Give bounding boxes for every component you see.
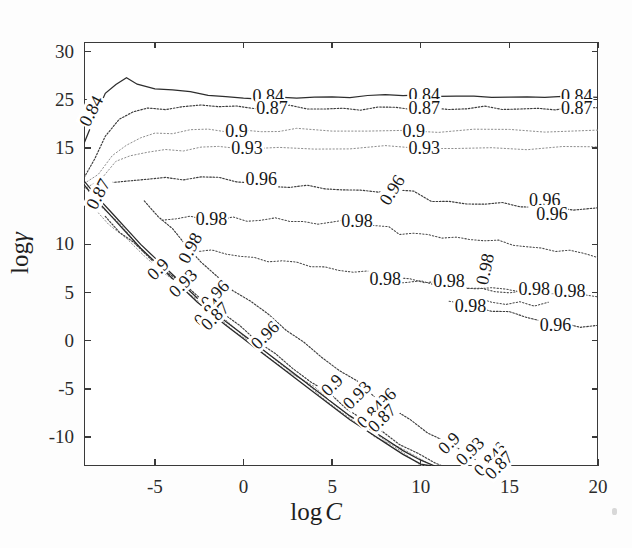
x-axis-tick-top xyxy=(509,42,510,48)
x-axis-tick xyxy=(331,459,332,466)
contour-level-label: 0.98 xyxy=(553,282,587,300)
contour-level-label: 0.9 xyxy=(401,122,426,140)
contour-path-0-96 xyxy=(105,216,445,466)
contour-level-label: 0.96 xyxy=(539,316,573,334)
x-axis-tick-label: -5 xyxy=(147,476,163,498)
x-axis-tick-top xyxy=(243,42,244,48)
y-axis-tick xyxy=(84,147,91,148)
contour-figure: 3025151050-5-10-505101520 0.840.840.840.… xyxy=(0,0,632,548)
contour-level-label: 0.93 xyxy=(408,139,442,157)
contour-level-label: 0.96 xyxy=(244,170,278,188)
y-axis-tick xyxy=(84,244,91,245)
y-axis-tick xyxy=(592,340,598,341)
contour-path-0-96 xyxy=(84,177,598,210)
y-axis-tick xyxy=(84,51,91,52)
contour-level-label: 0.9 xyxy=(224,122,249,140)
y-axis-tick xyxy=(592,244,598,245)
contour-level-label: 0.93 xyxy=(230,139,264,157)
x-axis-title-symbol: C xyxy=(322,498,342,525)
y-axis-tick xyxy=(592,147,598,148)
x-axis-tick xyxy=(420,459,421,466)
y-axis-tick-label: 30 xyxy=(28,41,74,63)
contour-level-label: 0.98 xyxy=(454,297,488,315)
y-axis-tick-label: -10 xyxy=(28,426,74,448)
y-axis-tick xyxy=(592,436,598,437)
x-axis-tick-top xyxy=(597,42,598,48)
y-axis-tick-label: 25 xyxy=(28,89,74,111)
y-axis-tick-label: 15 xyxy=(28,137,74,159)
contour-path-0-87 xyxy=(84,105,598,178)
contour-path-0-96 xyxy=(474,307,598,327)
x-axis-tick-top xyxy=(420,42,421,48)
contour-level-label: 0.96 xyxy=(535,205,569,223)
y-axis-tick xyxy=(84,436,91,437)
contour-level-label: 0.87 xyxy=(408,99,442,117)
y-axis-title-prefix: log xyxy=(6,242,33,274)
y-axis-tick xyxy=(84,388,91,389)
y-axis-tick xyxy=(592,292,598,293)
contour-level-label: 0.98 xyxy=(369,270,403,288)
contour-level-label: 0.87 xyxy=(255,99,289,117)
y-axis-tick-label: -5 xyxy=(28,378,74,400)
x-axis-tick-top xyxy=(331,42,332,48)
y-axis-tick-label: 5 xyxy=(28,282,74,304)
y-axis-title: logγ xyxy=(6,232,34,274)
y-axis-tick-label: 0 xyxy=(28,330,74,352)
y-axis-title-symbol: γ xyxy=(6,232,33,242)
contour-path-0-9 xyxy=(84,128,598,183)
x-axis-tick-label: 15 xyxy=(500,476,519,498)
x-axis-tick-label: 10 xyxy=(411,476,430,498)
y-axis-tick-label: 10 xyxy=(28,233,74,255)
y-axis-tick xyxy=(592,51,598,52)
x-axis-tick-top xyxy=(154,42,155,48)
contour-level-label: 0.87 xyxy=(560,99,594,117)
x-axis-tick-label: 0 xyxy=(239,476,249,498)
y-axis-tick xyxy=(84,340,91,341)
x-axis-tick xyxy=(243,459,244,466)
x-axis-tick-label: 5 xyxy=(327,476,337,498)
x-axis-tick-label: 20 xyxy=(589,476,608,498)
y-axis-tick xyxy=(84,292,91,293)
y-axis-tick xyxy=(592,388,598,389)
contour-level-label: 0.98 xyxy=(432,272,466,290)
contour-level-label: 0.98 xyxy=(195,210,229,228)
x-axis-title-prefix: log xyxy=(290,498,322,525)
contour-path-0-93 xyxy=(84,146,598,190)
contour-level-label: 0.98 xyxy=(517,280,551,298)
scan-artifact xyxy=(612,508,617,515)
x-axis-title: logC xyxy=(290,498,342,526)
contour-level-label: 0.98 xyxy=(340,212,374,230)
x-axis-tick xyxy=(597,459,598,466)
x-axis-tick xyxy=(154,459,155,466)
